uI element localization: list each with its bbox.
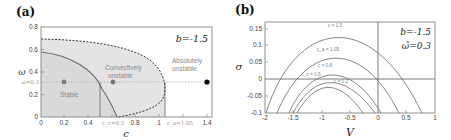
svg-text:ω̃=0.3: ω̃=0.3 xyxy=(21,79,39,85)
phase-diagram: 0 0.2 0.4 0.8 1 1.4 0 0.2 0.4 0.6 0.8 c_… xyxy=(0,0,225,140)
svg-text:c_c=0.5: c_c=0.5 xyxy=(102,120,125,127)
svg-text:0: 0 xyxy=(34,113,38,120)
curve-ca-1.05 xyxy=(277,58,399,113)
svg-text:unstable: unstable xyxy=(108,72,133,79)
svg-text:unstable: unstable xyxy=(172,65,197,72)
svg-text:0.4: 0.4 xyxy=(83,119,92,126)
svg-text:0.15: 0.15 xyxy=(249,25,262,32)
growth-rate-chart: c = 1.5 c_a = 1.05 c = 0.8 c_c = 0.5 c =… xyxy=(225,0,451,140)
svg-text:0.8: 0.8 xyxy=(29,23,38,30)
svg-text:1: 1 xyxy=(157,119,161,126)
svg-text:0: 0 xyxy=(258,75,262,82)
svg-text:0.05: 0.05 xyxy=(249,58,262,65)
panel-b: (b) c = 1.5 c_a = 1.05 c = 0.8 c_c = 0.5… xyxy=(225,0,451,140)
svg-text:c = 0.2: c = 0.2 xyxy=(334,79,349,84)
svg-text:b=-1.5: b=-1.5 xyxy=(400,27,431,37)
svg-text:Stable: Stable xyxy=(60,91,79,98)
svg-text:ω: ω xyxy=(18,67,26,77)
curve-c-0.2 xyxy=(297,87,363,113)
svg-text:0: 0 xyxy=(39,119,43,126)
svg-text:Absolutely: Absolutely xyxy=(172,57,203,65)
panel-a: (a) 0 0.2 0.4 xyxy=(0,0,225,140)
svg-text:0.1: 0.1 xyxy=(253,41,262,48)
svg-text:0.5: 0.5 xyxy=(401,114,410,121)
svg-text:σ: σ xyxy=(236,61,244,72)
svg-text:ω̃=0.3: ω̃=0.3 xyxy=(402,41,431,51)
svg-text:c_c = 0.5: c_c = 0.5 xyxy=(301,72,321,77)
svg-text:Convectively: Convectively xyxy=(105,64,143,72)
svg-text:V: V xyxy=(346,126,355,139)
point-stable xyxy=(62,80,67,85)
svg-text:0.6: 0.6 xyxy=(29,46,38,53)
svg-text:-0.5: -0.5 xyxy=(344,114,356,121)
svg-text:c: c xyxy=(123,128,129,139)
svg-text:-0.1: -0.1 xyxy=(251,109,263,116)
svg-text:-1.5: -1.5 xyxy=(287,114,299,121)
svg-text:c_a = 1.05: c_a = 1.05 xyxy=(317,47,340,52)
svg-text:-1: -1 xyxy=(319,114,325,121)
svg-text:0.4: 0.4 xyxy=(29,68,38,75)
svg-text:b=-1.5: b=-1.5 xyxy=(176,33,208,44)
svg-text:c = 1.5: c = 1.5 xyxy=(328,23,343,28)
svg-text:1: 1 xyxy=(433,114,437,121)
svg-text:0: 0 xyxy=(376,114,380,121)
svg-text:c_a=1.05: c_a=1.05 xyxy=(167,120,193,127)
svg-text:-2: -2 xyxy=(262,114,268,121)
svg-text:0.8: 0.8 xyxy=(130,119,139,126)
point-convective xyxy=(111,80,116,85)
svg-text:0.2: 0.2 xyxy=(29,91,38,98)
point-absolute xyxy=(204,79,209,84)
svg-text:1.4: 1.4 xyxy=(202,119,211,126)
svg-text:c = 0.8: c = 0.8 xyxy=(318,63,333,68)
svg-text:-0.05: -0.05 xyxy=(247,92,262,99)
svg-text:0.2: 0.2 xyxy=(59,119,68,126)
curve-c-1.5 xyxy=(266,38,422,113)
